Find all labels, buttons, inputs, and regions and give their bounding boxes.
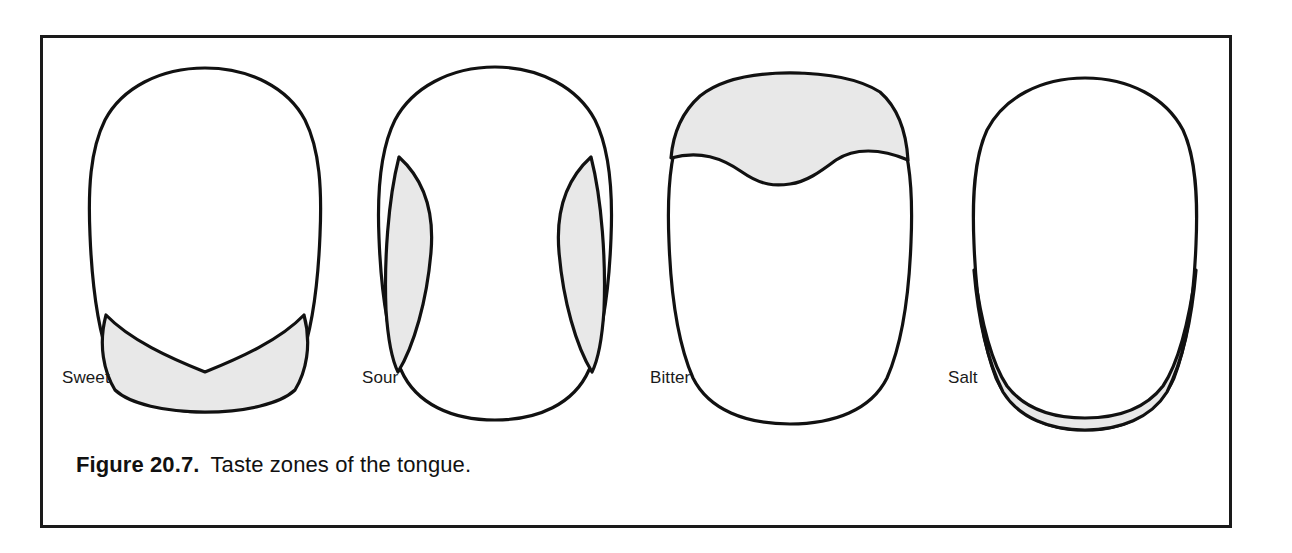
diagram-sweet: Sweet <box>62 68 321 412</box>
figure-caption-description: Taste zones of the tongue. <box>210 452 471 478</box>
diagram-bitter: Bitter <box>650 73 912 424</box>
zone-label-bitter: Bitter <box>650 368 691 387</box>
tongue-outline-salt <box>973 78 1196 430</box>
figure-caption-number: Figure 20.7. <box>76 452 199 478</box>
diagram-salt: Salt <box>948 78 1197 430</box>
figure-caption: Figure 20.7. Taste zones of the tongue. <box>76 448 1076 482</box>
diagram-sour: Sour <box>362 67 612 420</box>
zone-label-sour: Sour <box>362 368 399 387</box>
zone-label-sweet: Sweet <box>62 368 110 387</box>
figure-page: Sweet Sour Bitter Salt Figure 20.7. Tast… <box>0 0 1292 553</box>
zone-label-salt: Salt <box>948 368 978 387</box>
